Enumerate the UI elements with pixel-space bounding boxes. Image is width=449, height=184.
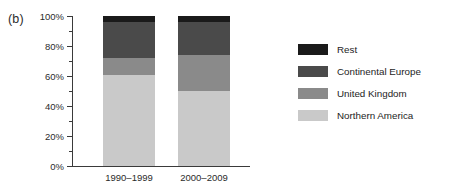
legend-swatch (298, 88, 328, 99)
y-tick-minor (69, 121, 72, 122)
y-tick-minor (69, 61, 72, 62)
legend-swatch (298, 110, 328, 121)
legend-label: Northern America (337, 110, 413, 121)
x-axis-line (72, 166, 250, 167)
y-tick-label: 20% (45, 131, 64, 142)
bar-segment (178, 22, 230, 55)
legend-label: Continental Europe (337, 66, 421, 77)
y-tick-minor (69, 151, 72, 152)
y-tick-minor (69, 31, 72, 32)
y-tick-major (67, 106, 72, 107)
y-tick-major (67, 76, 72, 77)
bar-segment (103, 58, 155, 75)
legend: RestContinental EuropeUnited KingdomNort… (298, 44, 421, 121)
y-tick-label: 100% (40, 11, 64, 22)
y-tick-label: 40% (45, 101, 64, 112)
y-tick-minor (69, 91, 72, 92)
y-tick-label: 0% (50, 161, 64, 172)
legend-item: United Kingdom (298, 88, 421, 99)
y-tick-label: 60% (45, 71, 64, 82)
y-tick-major (67, 16, 72, 17)
bar-segment (178, 55, 230, 91)
y-tick-major (67, 166, 72, 167)
legend-label: United Kingdom (337, 88, 407, 99)
y-tick-major (67, 136, 72, 137)
plot-area: 0%20%40%60%80%100% 1990–19992000–2009 (72, 16, 250, 166)
legend-item: Northern America (298, 110, 421, 121)
legend-swatch (298, 66, 328, 77)
legend-label: Rest (337, 44, 357, 55)
x-tick-label: 2000–2009 (159, 172, 249, 183)
bar-segment (103, 22, 155, 58)
bar-segment (178, 91, 230, 166)
y-tick-label: 80% (45, 41, 64, 52)
figure-panel-b: (b) 0%20%40%60%80%100% 1990–19992000–200… (0, 0, 449, 184)
bar-1 (103, 16, 155, 166)
y-axis-line (72, 16, 73, 166)
legend-item: Continental Europe (298, 66, 421, 77)
y-tick-major (67, 46, 72, 47)
bar-segment (103, 75, 155, 167)
legend-item: Rest (298, 44, 421, 55)
legend-swatch (298, 44, 328, 55)
panel-label: (b) (8, 12, 24, 26)
bar-2 (178, 16, 230, 166)
